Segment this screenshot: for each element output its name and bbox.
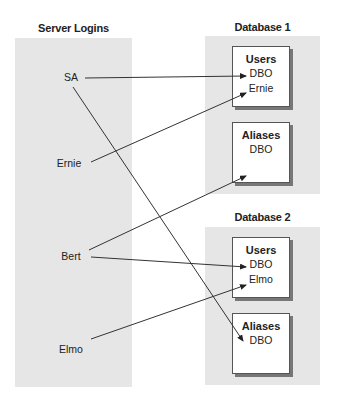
arrow-sa-to-db2-aliases-dbo	[73, 87, 243, 341]
arrow-bert-to-db2-dbo	[91, 257, 246, 267]
arrow-bert-to-db1-aliases-dbo	[89, 176, 246, 250]
arrow-elmo-to-db2-elmo	[91, 285, 246, 339]
mapping-arrows	[0, 0, 339, 408]
arrow-ernie-to-db1-ernie	[91, 93, 246, 162]
arrow-sa-to-db1-dbo	[85, 76, 246, 78]
